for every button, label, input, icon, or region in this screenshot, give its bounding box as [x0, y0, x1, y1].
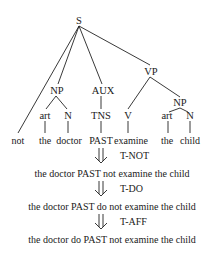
leaf-doctor: doctor [56, 135, 82, 146]
double-down-arrow-icon [95, 214, 107, 229]
node-N-object: N [186, 110, 194, 121]
rule-label-t-do: T-DO [120, 183, 143, 194]
derivation-line-1: the doctor PAST not examine the child [35, 168, 190, 179]
node-N-subject: N [64, 110, 72, 121]
double-down-arrow-icon [95, 148, 107, 163]
node-S: S [76, 15, 82, 26]
leaf-past: PAST [89, 135, 113, 146]
node-TNS: TNS [91, 110, 111, 121]
rule-label-t-aff: T-AFF [120, 216, 147, 227]
leaf-the-object: the [161, 135, 174, 146]
derivation-line-2: the doctor PAST do not examine the child [28, 201, 195, 212]
node-AUX: AUX [92, 85, 115, 96]
leaf-not: not [12, 135, 25, 146]
leaf-examine: examine [114, 135, 148, 146]
leaf-child: child [180, 135, 200, 146]
node-art-subject: art [39, 110, 50, 121]
node-V: V [124, 110, 132, 121]
node-art-object: art [161, 110, 172, 121]
rule-label-t-not: T-NOT [120, 150, 149, 161]
double-down-arrow-icon [95, 181, 107, 196]
node-NP-object: NP [173, 97, 187, 108]
leaf-row: not the doctor PAST examine the child [12, 135, 200, 146]
leaf-the-subject: the [39, 135, 52, 146]
node-VP: VP [144, 66, 158, 77]
node-NP-subject: NP [50, 85, 64, 96]
derivation-line-3: the doctor do PAST not examine the child [28, 234, 195, 245]
syntax-tree-diagram: S VP NP AUX NP art N TNS V art N not the… [0, 0, 224, 262]
